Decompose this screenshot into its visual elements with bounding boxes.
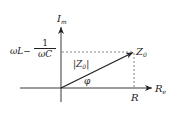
reactance-fraction: 1 ωC (34, 38, 56, 60)
imaginary-axis-label: Im (57, 14, 67, 25)
fraction-denominator: ωC (38, 49, 52, 60)
resistance-label: R (131, 93, 139, 103)
fraction-numerator: 1 (42, 38, 48, 48)
real-axis-label: Re (155, 84, 166, 95)
phasor-diagram-canvas (0, 0, 171, 116)
reactance-label-left: ωL− (10, 47, 31, 56)
vector-magnitude-label: |Z0| (73, 60, 89, 70)
vector-endpoint-label: Z0 (136, 47, 147, 58)
phase-angle-label: φ (84, 77, 90, 86)
impedance-vector (61, 53, 133, 89)
